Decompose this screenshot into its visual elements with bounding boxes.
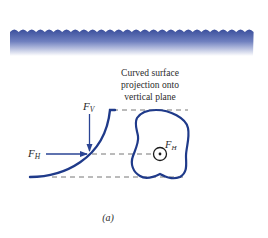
projected-force-label: FH: [164, 139, 177, 152]
annotation-text: Curved surface projection onto vertical …: [121, 68, 179, 102]
water-body: [10, 30, 254, 57]
curved-surface: [30, 110, 115, 177]
hydrostatic-force-diagram: Curved surface projection onto vertical …: [0, 0, 268, 238]
annotation-line-1: Curved surface: [121, 68, 179, 78]
projected-area-outline: [132, 110, 189, 178]
water-surface: [10, 30, 254, 57]
vertical-force-label: FV: [82, 100, 96, 114]
horizontal-force-label: FH: [27, 147, 41, 161]
annotation-line-3: vertical plane: [124, 92, 175, 102]
figure-caption: (a): [102, 212, 114, 224]
annotation-line-2: projection onto: [121, 80, 179, 90]
